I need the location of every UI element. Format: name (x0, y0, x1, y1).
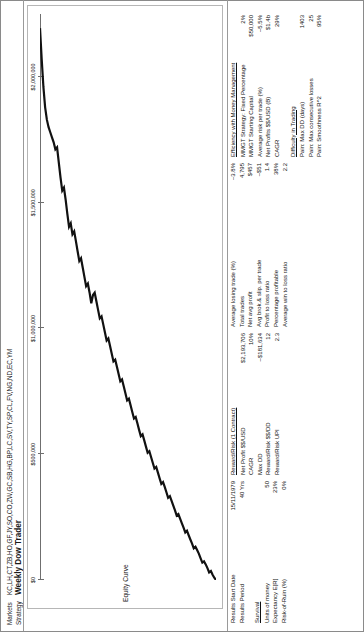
stats-row-value: 50 (263, 481, 272, 488)
axis-tick-label: $500,000 (30, 443, 36, 465)
stats-row: Total trades4,795 (238, 163, 247, 327)
stats-row-label: Percentage profitable (272, 270, 281, 327)
stats-group-title: Efficiency with Money Management (229, 15, 238, 157)
stats-row-label: CAGR (247, 458, 256, 475)
stats-group-title: Reward/Risk (1 Contract) (229, 333, 238, 475)
stats-row-label: Pain: Max consecutive losses (307, 78, 316, 157)
stats-column-1: Results Start Date15/11/1979Results Peri… (229, 475, 359, 623)
report-page: Markets KC,LH,CT,ZB,HO,GF,JY,SO,CO,ZW,GC… (0, 0, 364, 632)
stats-row-value: 15/11/1979 (229, 481, 238, 511)
markets-value: KC,LH,CT,ZB,HO,GF,JY,SO,CO,ZW,GC,SB,HG,B… (5, 349, 14, 595)
stats-row-value: $50,000 (247, 15, 256, 37)
stats-row: Results Start Date15/11/1979 (229, 481, 238, 623)
stats-row-value: 38% (272, 163, 281, 175)
strategy-value: Weekly Dow Trader (14, 520, 23, 595)
stats-row-value: –$181,634 (256, 333, 265, 361)
stats-group: Reward/Risk (1 Contract)Net Profit $$/US… (229, 333, 282, 475)
stats-row: MMGT Strategy: Fixed Percentage2% (239, 15, 248, 157)
stats-row-value: 1403 (298, 15, 307, 28)
axis-tick-label: $0 (30, 577, 36, 583)
equity-curve-line (40, 14, 216, 580)
stats-row: Net Profits $$/USD (B)$1.4b (264, 15, 273, 157)
stats-row-value: 29% (273, 15, 282, 27)
stats-row-value: 2% (239, 15, 248, 24)
stats-row: Risk-of-Ruin (%)0% (280, 481, 289, 623)
stats-row-value: 1.4 (263, 163, 272, 171)
stats-row: Pain: Smoothness R^295% (315, 15, 324, 157)
stats-row-value: –$51 (255, 163, 264, 176)
strategy-row: Strategy Weekly Dow Trader (14, 5, 23, 625)
stats-group: Efficiency with Money ManagementMMGT Str… (229, 15, 282, 157)
stats-row-value: 23% (271, 481, 280, 493)
stats-group: SurvivalUnits of money50Expectancy E[R]2… (253, 481, 288, 623)
stats-row-label: Average risk per trade (%) (256, 87, 265, 157)
stats-row-value: –3.8% (229, 163, 238, 180)
stats-row-value: 2.3 (273, 333, 282, 341)
axis-tick-label: $1,000,000 (30, 315, 36, 342)
equity-curve-chart: Equity Curve $0$500,000$1,000,000$1,500,… (27, 5, 223, 609)
stats-row-value: 95% (315, 15, 324, 27)
stats-row: CAGR10% (247, 333, 256, 475)
stats-row-label: Pain: Max DD (days) (298, 102, 307, 157)
stats-row-value: 0% (280, 481, 289, 490)
stats-row-label: Results Start Date (229, 574, 238, 623)
stats-row-value: $2,193,706 (239, 333, 248, 363)
stats-row-value: –5.5% (256, 15, 265, 32)
stats-row-value: $457 (246, 163, 255, 176)
stats-row-label: Risk-of-Ruin (%) (280, 579, 289, 623)
stats-row-label: Expectancy E[R] (271, 579, 280, 623)
stats-row-label: Average win to loss ratio (281, 262, 290, 327)
report-header: Markets KC,LH,CT,ZB,HO,GF,JY,SO,CO,ZW,GC… (5, 5, 23, 625)
stats-row-label: CAGR (273, 140, 282, 157)
stats-row-value: 10% (247, 333, 256, 345)
stats-row-value: 12 (264, 333, 273, 340)
stats-row: Average losing trade (%)–3.8% (229, 163, 238, 327)
stats-row-label: Net Profits $$/USD (B) (264, 97, 273, 157)
stats-row-value: 4,795 (238, 163, 247, 178)
stats-row-label: Net Profit $$/USD (239, 427, 248, 475)
stats-row-label: Net avg profit (246, 291, 255, 327)
stats-row-label: MMGT Starting Capital (247, 96, 256, 157)
stats-row: Max DD–$181,634 (256, 333, 265, 475)
stats-group: Average losing trade (%)–3.8%Total trade… (229, 163, 289, 327)
stats-row: CAGR29% (273, 15, 282, 157)
stats-row-label: Reward/Risk $$/DD (264, 422, 273, 475)
report-sheet: Markets KC,LH,CT,ZB,HO,GF,JY,SO,CO,ZW,GC… (0, 0, 364, 632)
markets-label: Markets (5, 595, 14, 625)
stats-row: Net avg profit$457 (246, 163, 255, 327)
stats-row: Pain: Max consecutive losses25 (307, 15, 316, 157)
markets-row: Markets KC,LH,CT,ZB,HO,GF,JY,SO,CO,ZW,GC… (5, 5, 14, 625)
stats-row-label: Reward/Risk UPI (273, 429, 282, 475)
stats-row-value: 2.2 (281, 163, 290, 171)
stats-row: Net Profit $$/USD$2,193,706 (239, 333, 248, 475)
stats-column-2: Average losing trade (%)–3.8%Total trade… (229, 157, 359, 327)
stats-row-value: 40 Yrs (238, 481, 247, 498)
stats-row: MMGT Starting Capital$50,000 (247, 15, 256, 157)
stats-row: Reward/Risk $$/DD12 (264, 333, 273, 475)
stats-row-label: Max DD (256, 453, 265, 475)
stats-column-3: Efficiency with Money ManagementMMGT Str… (229, 9, 359, 157)
stats-row: Reward/Risk UPI2.3 (273, 333, 282, 475)
stats-row-label: Units of money (263, 583, 272, 623)
stats-row: Average win to loss ratio2.2 (281, 163, 290, 327)
stats-row-label: Profit to loss ratio (263, 281, 272, 327)
stats-row: Pain: Max DD (days)1403 (298, 15, 307, 157)
stats-row: Avg brok.& slip. per trade–$51 (255, 163, 264, 327)
stats-row-value: 25 (307, 15, 316, 22)
stats-row-label: Pain: Smoothness R^2 (315, 96, 324, 157)
stats-column-1b: Reward/Risk (1 Contract)Net Profit $$/US… (229, 327, 359, 475)
stats-group-title: Difficulty in Trading (289, 15, 298, 157)
stats-row: Profit to loss ratio1.4 (263, 163, 272, 327)
stats-row-label: Average losing trade (%) (229, 261, 238, 327)
statistics-table: Results Start Date15/11/1979Results Peri… (229, 5, 359, 623)
stats-row: Results Period40 Yrs (238, 481, 247, 623)
axis-tick-label: $2,000,000 (30, 63, 36, 90)
stats-row-label: Total trades (238, 296, 247, 327)
axis-tick-label: $1,500,000 (30, 189, 36, 216)
stats-row: Average risk per trade (%)–5.5% (256, 15, 265, 157)
stats-row: Units of money50 (263, 481, 272, 623)
stats-row: Percentage profitable38% (272, 163, 281, 327)
strategy-label: Strategy (14, 595, 23, 625)
header-divider (23, 0, 24, 631)
plot-area (40, 14, 216, 580)
